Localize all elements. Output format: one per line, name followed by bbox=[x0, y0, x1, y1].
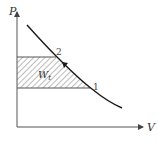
work-area bbox=[17, 57, 90, 88]
pv-diagram: P V 2 1 Wt bbox=[0, 0, 159, 149]
point-1-label: 1 bbox=[93, 82, 99, 92]
x-axis-label: V bbox=[147, 121, 156, 134]
y-axis-label: P bbox=[8, 5, 17, 18]
point-2-label: 2 bbox=[56, 47, 62, 57]
